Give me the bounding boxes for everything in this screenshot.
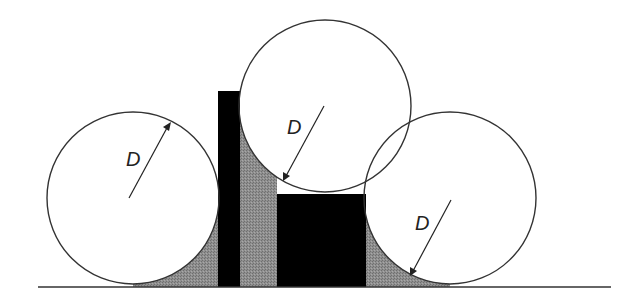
arrowhead-icon [283, 172, 290, 181]
label-d-right: D [415, 212, 429, 234]
void-center [240, 100, 277, 287]
label-d-middle: D [287, 116, 301, 138]
packing-diagram: D D D [0, 0, 626, 299]
tall-bar [218, 91, 240, 287]
short-block [277, 194, 366, 287]
arrowhead-icon [163, 122, 171, 131]
label-d-left: D [126, 148, 140, 170]
